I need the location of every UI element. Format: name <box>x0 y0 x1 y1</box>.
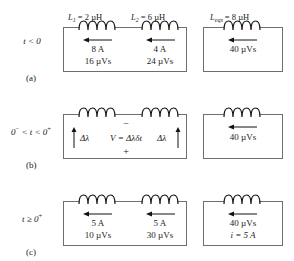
value-flux: 40 µVs <box>204 132 282 144</box>
row-c-current-arrow-2-icon <box>146 210 176 218</box>
row-a-current-arrow-1-icon <box>83 36 113 44</box>
figure-row-b: 0− < t < 0+ Δλ <box>0 87 294 174</box>
row-c-equivalent-coil-icon <box>223 194 263 206</box>
value-current: 5 A <box>72 218 124 230</box>
row-a-current-arrow-2-icon <box>146 36 176 44</box>
row-b-flux-arrow-left-icon <box>70 127 78 149</box>
row-a-values-2: 4 A 24 µVs <box>134 44 186 67</box>
row-b-voltage-equation: V = Δλδt <box>97 133 155 143</box>
row-c-time-label: t ≥ 0+ <box>4 210 60 225</box>
value-current: i = 5 A <box>204 230 282 242</box>
row-a-caption: (a) <box>26 73 36 83</box>
row-c-coil-2-icon <box>141 194 181 206</box>
row-a-coil-2-icon <box>141 20 181 32</box>
row-b-equivalent-coil-icon <box>223 107 263 119</box>
value-flux: 40 µVs <box>204 218 282 230</box>
row-b-coil-1-icon <box>78 107 118 119</box>
value-flux: 10 µVs <box>72 230 124 242</box>
value-flux: 30 µVs <box>134 230 186 242</box>
row-a-equivalent-current-arrow-icon <box>228 36 258 44</box>
row-c-values-1: 5 A 10 µVs <box>72 218 124 241</box>
row-a-equivalent-values: 40 µVs <box>204 44 282 56</box>
row-b-right-circuit: 40 µVs <box>203 114 283 159</box>
row-a-coil-1-icon <box>78 20 118 32</box>
row-c-values-2: 5 A 30 µVs <box>134 218 186 241</box>
figure-row-c: t ≥ 0+ <box>0 174 294 261</box>
row-b-polarity-minus: − <box>106 119 146 128</box>
row-b-polarity-plus: + <box>106 147 146 156</box>
row-c-coil-1-icon <box>78 194 118 206</box>
row-b-flux-label-left: Δλ <box>80 133 89 143</box>
row-c-left-circuit: 5 A 10 µVs 5 A 30 µVs <box>63 201 187 246</box>
row-b-coil-2-icon <box>141 107 181 119</box>
row-a-time-label: t < 0 <box>4 36 60 47</box>
row-c-right-circuit: 40 µVs i = 5 A <box>203 201 283 246</box>
value-flux: 16 µVs <box>72 56 124 68</box>
row-b-caption: (b) <box>26 160 37 170</box>
row-a-left-circuit: 8 A 16 µVs 4 A 24 µVs <box>63 27 187 72</box>
row-b-flux-arrow-right-icon <box>174 127 182 149</box>
row-b-equivalent-values: 40 µVs <box>204 132 282 144</box>
value-current: 5 A <box>134 218 186 230</box>
value-current: 4 A <box>134 44 186 56</box>
row-b-equivalent-current-arrow-icon <box>228 123 258 131</box>
row-c-equivalent-values: 40 µVs i = 5 A <box>204 218 282 241</box>
value-flux: 24 µVs <box>134 56 186 68</box>
row-a-values-1: 8 A 16 µVs <box>72 44 124 67</box>
row-c-caption: (c) <box>26 247 36 257</box>
inductor-equivalence-figure: t < 0 L1 = 2 µH L2 = 6 µH Leqs = 8 µH <box>0 0 294 261</box>
value-flux: 40 µVs <box>204 44 282 56</box>
row-c-current-arrow-1-icon <box>83 210 113 218</box>
figure-row-a: t < 0 L1 = 2 µH L2 = 6 µH Leqs = 8 µH <box>0 0 294 87</box>
row-b-left-circuit: Δλ Δλ V = Δλδt − + <box>63 114 187 159</box>
row-a-right-circuit: 40 µVs <box>203 27 283 72</box>
row-b-flux-label-right: Δλ <box>157 133 166 143</box>
row-a-equivalent-coil-icon <box>223 20 263 32</box>
value-current: 8 A <box>72 44 124 56</box>
row-c-equivalent-current-arrow-icon <box>228 210 258 218</box>
row-b-time-label: 0− < t < 0+ <box>0 123 62 138</box>
